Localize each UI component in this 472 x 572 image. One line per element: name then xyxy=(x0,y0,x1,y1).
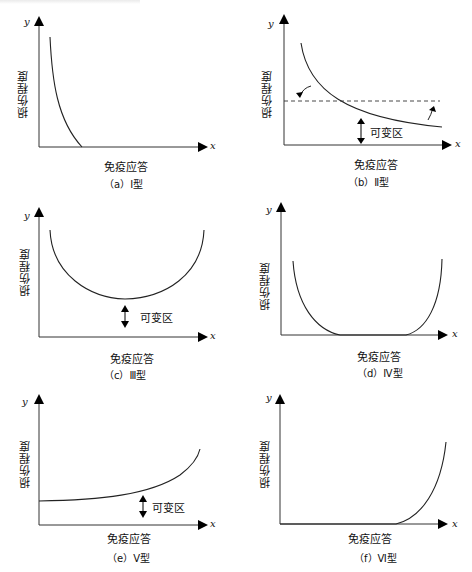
caption-e: （e）Ⅴ型 xyxy=(107,550,150,565)
curve-b xyxy=(301,43,442,127)
caption-a: （a）Ⅰ型 xyxy=(104,176,143,191)
panel-b: y x 损伤程度 可变区 免疫应答 （b）Ⅱ型 xyxy=(236,0,472,190)
curve-e xyxy=(39,449,200,501)
x-axis-label: 免疫应答 xyxy=(104,158,148,174)
curve-c xyxy=(50,230,204,299)
x-var: x xyxy=(210,140,216,151)
panel-c: y x 损伤程度 可变区 免疫应答 （c）Ⅲ型 xyxy=(0,190,236,380)
y-axis-label: 损伤程度 xyxy=(260,70,276,118)
panel-a: y x 损伤程度 免疫应答 （a）Ⅰ型 xyxy=(0,0,236,190)
y-var: y xyxy=(266,204,272,215)
curve-d xyxy=(293,259,442,335)
caption-d: （d）Ⅳ型 xyxy=(357,365,403,380)
panel-f: y x 损伤程度 免疫应答 （f）Ⅵ型 xyxy=(236,380,472,570)
y-var: y xyxy=(24,210,30,221)
y-axis-label: 损伤程度 xyxy=(18,248,34,296)
y-axis-label: 损伤程度 xyxy=(16,70,32,118)
y-var: y xyxy=(266,392,272,403)
y-axis-label: 损伤程度 xyxy=(18,440,34,488)
curve-a xyxy=(50,37,82,147)
x-axis-label: 免疫应答 xyxy=(107,530,151,546)
x-axis-label: 免疫应答 xyxy=(357,348,401,364)
x-var: x xyxy=(452,328,458,339)
caption-f: （f）Ⅵ型 xyxy=(354,550,397,565)
x-axis-label: 免疫应答 xyxy=(354,156,398,172)
y-var: y xyxy=(268,18,274,29)
x-var: x xyxy=(210,518,216,529)
x-var: x xyxy=(452,518,458,529)
variable-zone-label: 可变区 xyxy=(370,124,403,140)
y-axis-label: 损伤程度 xyxy=(258,440,274,488)
x-var: x xyxy=(455,138,461,149)
variable-zone-label: 可变区 xyxy=(140,309,173,325)
x-axis-label: 免疫应答 xyxy=(348,530,392,546)
curve-f xyxy=(280,442,446,524)
y-var: y xyxy=(24,16,30,27)
y-axis-label: 损伤程度 xyxy=(258,262,274,310)
panel-d: y x 损伤程度 免疫应答 （d）Ⅳ型 xyxy=(236,190,472,380)
caption-b: （b）Ⅱ型 xyxy=(348,174,389,189)
x-axis-label: 免疫应答 xyxy=(110,350,154,366)
y-var: y xyxy=(22,396,28,407)
variable-zone-label: 可变区 xyxy=(152,499,185,515)
x-var: x xyxy=(210,330,216,341)
panel-e: y x 损伤程度 可变区 免疫应答 （e）Ⅴ型 xyxy=(0,380,236,570)
